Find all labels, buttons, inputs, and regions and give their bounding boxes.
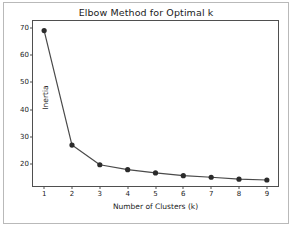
x-tick-mark [71, 186, 72, 189]
data-point [181, 173, 186, 178]
y-tick-label: 60 [20, 51, 29, 59]
x-tick-label: 4 [125, 190, 129, 198]
x-tick-mark [211, 186, 212, 189]
y-tick-label: 40 [20, 106, 29, 114]
data-point [69, 142, 74, 147]
chart-title: Elbow Method for Optimal k [0, 7, 292, 18]
chart-figure: Elbow Method for Optimal k Inertia 20304… [0, 0, 292, 227]
x-tick-label: 1 [42, 190, 46, 198]
y-tick-label: 70 [20, 24, 29, 32]
y-tick-label: 30 [20, 133, 29, 141]
data-point [125, 167, 130, 172]
x-tick-label: 5 [153, 190, 157, 198]
line-series-plot [33, 21, 278, 186]
x-tick-mark [183, 186, 184, 189]
x-tick-label: 9 [265, 190, 269, 198]
x-tick-label: 7 [209, 190, 213, 198]
x-axis-label: Number of Clusters (k) [32, 202, 279, 211]
inertia-markers [42, 28, 270, 183]
x-tick-mark [155, 186, 156, 189]
x-tick-mark [44, 186, 45, 189]
x-tick-mark [127, 186, 128, 189]
plot-area: Inertia 203040506070 123456789 [32, 20, 279, 187]
data-point [236, 177, 241, 182]
data-point [42, 28, 47, 33]
y-tick-label: 20 [20, 160, 29, 168]
data-point [209, 175, 214, 180]
data-point [264, 177, 269, 182]
x-tick-label: 2 [70, 190, 74, 198]
x-tick-mark [266, 186, 267, 189]
inertia-line [44, 31, 267, 180]
x-tick-label: 6 [181, 190, 185, 198]
x-tick-label: 3 [98, 190, 102, 198]
x-tick-mark [239, 186, 240, 189]
x-tick-mark [99, 186, 100, 189]
data-point [97, 162, 102, 167]
x-tick-label: 8 [237, 190, 241, 198]
y-tick-label: 50 [20, 78, 29, 86]
data-point [153, 170, 158, 175]
